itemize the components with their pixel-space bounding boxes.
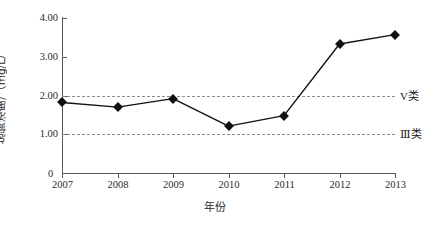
x-tick-label-2013: 2013 — [385, 180, 406, 191]
y-tick-label-4: 4.00 — [40, 13, 58, 24]
x-tick-2007: 2007 — [62, 173, 63, 178]
x-tick-label-2009: 2009 — [163, 180, 184, 191]
x-tick-2008: 2008 — [118, 173, 119, 178]
y-axis-title: 总氮浓度/（mg/L） — [0, 48, 12, 144]
plot-area: 4.00 3.00 2.00 1.00 2007 2008 2009 — [62, 18, 395, 173]
x-tick-label-2012: 2012 — [330, 180, 351, 191]
reference-label-class-v: V类 — [400, 90, 419, 101]
x-axis-title: 年份 — [0, 198, 429, 214]
y-tick-label-1: 1.00 — [40, 129, 58, 140]
y-tick-label-2: 2.00 — [40, 90, 58, 101]
x-tick-2011: 2011 — [284, 173, 285, 178]
y-tick-label-3: 3.00 — [40, 52, 58, 63]
x-tick-2013: 2013 — [395, 173, 396, 178]
scan-artifact — [6, 1, 156, 8]
x-tick-label-2011: 2011 — [274, 180, 295, 191]
series-line-total-nitrogen — [62, 18, 395, 173]
x-tick-label-2007: 2007 — [52, 180, 73, 191]
x-tick-2012: 2012 — [340, 173, 341, 178]
reference-label-class-iii: Ⅲ类 — [400, 129, 422, 140]
y-tick-label-0: 0 — [48, 168, 53, 179]
x-tick-2010: 2010 — [229, 173, 230, 178]
chart-figure: 总氮浓度/（mg/L） 0 4.00 3.00 2.00 1.00 2007 — [0, 0, 429, 226]
x-tick-label-2008: 2008 — [108, 180, 129, 191]
x-tick-2009: 2009 — [173, 173, 174, 178]
x-tick-label-2010: 2010 — [219, 180, 240, 191]
